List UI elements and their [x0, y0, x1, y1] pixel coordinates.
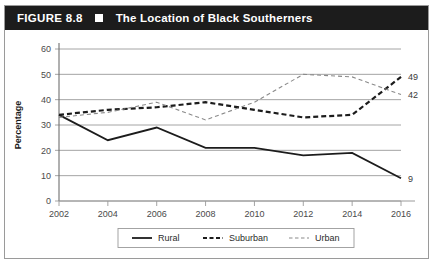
figure-header: FIGURE 8.8 The Location of Black Souther… [5, 6, 428, 30]
y-tick-labels: 0102030405060 [41, 44, 51, 206]
y-tick-label: 30 [41, 120, 51, 130]
x-tick-label: 2016 [391, 209, 411, 219]
x-tick-label: 2002 [49, 209, 69, 219]
y-tick-label: 0 [46, 196, 51, 206]
y-tick-label: 10 [41, 171, 51, 181]
y-axis-title-text: Percentage [13, 101, 23, 150]
data-label-urban: 42 [408, 90, 418, 100]
x-tick-label: 2008 [196, 209, 216, 219]
line-chart: 0102030405060 20022004200620082010201220… [5, 31, 428, 258]
data-point-labels: 94942 [408, 72, 418, 183]
legend-label-suburban: Suburban [229, 233, 268, 243]
x-tick-label: 2004 [98, 209, 118, 219]
y-axis-title: Percentage [13, 101, 23, 150]
series-line-rural [59, 115, 401, 178]
x-tick-label: 2014 [342, 209, 362, 219]
figure-title: The Location of Black Southerners [116, 12, 313, 24]
series-lines [59, 74, 401, 178]
y-tick-label: 60 [41, 44, 51, 54]
y-tick-label: 20 [41, 146, 51, 156]
chart-area: 0102030405060 20022004200620082010201220… [5, 31, 428, 258]
axis-lines [59, 43, 415, 201]
legend-label-rural: Rural [158, 233, 180, 243]
y-tick-label: 50 [41, 70, 51, 80]
data-label-suburban: 49 [408, 72, 418, 82]
x-tick-label: 2006 [147, 209, 167, 219]
x-tick-label: 2010 [244, 209, 264, 219]
x-tick-marks [59, 201, 401, 206]
data-label-rural: 9 [408, 174, 413, 184]
figure-number: FIGURE 8.8 [17, 12, 83, 24]
series-line-urban [59, 74, 401, 120]
gridlines [59, 49, 401, 201]
chart-legend: RuralSuburbanUrban [118, 229, 354, 248]
x-tick-label: 2012 [293, 209, 313, 219]
y-tick-label: 40 [41, 95, 51, 105]
square-marker-icon [95, 14, 103, 22]
x-tick-labels: 20022004200620082010201220142016 [49, 209, 411, 219]
y-tick-marks [55, 49, 59, 201]
legend-label-urban: Urban [315, 233, 340, 243]
figure-container: FIGURE 8.8 The Location of Black Souther… [0, 0, 434, 267]
